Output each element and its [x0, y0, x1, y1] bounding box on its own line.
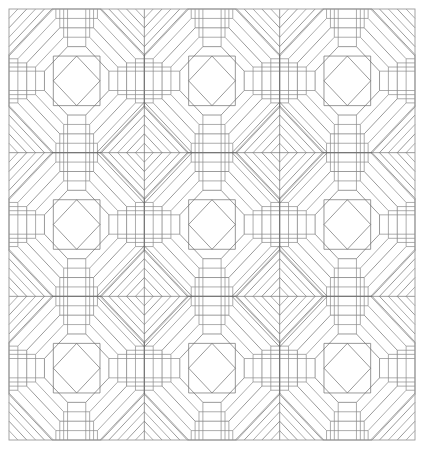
- quilt-pattern-svg: [0, 0, 429, 451]
- pattern-canvas: [0, 0, 429, 451]
- canvas-background: [0, 0, 429, 451]
